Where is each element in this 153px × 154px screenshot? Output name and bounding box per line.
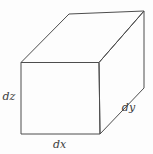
- box-diagram: dz dx dy: [0, 0, 153, 154]
- box-right-face: [99, 11, 144, 134]
- label-dy: dy: [122, 101, 136, 114]
- box-front-face: [21, 63, 100, 135]
- label-dx: dx: [53, 138, 67, 151]
- differential-volume-box-figure: dz dx dy: [0, 0, 153, 154]
- box-top-face: [21, 11, 144, 63]
- label-dz: dz: [3, 90, 16, 103]
